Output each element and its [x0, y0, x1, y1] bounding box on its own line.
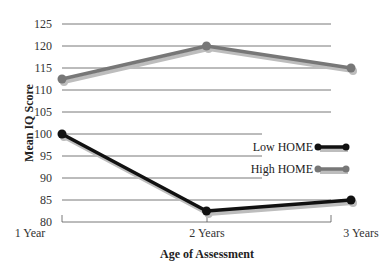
y-tick-label: 105: [34, 105, 52, 119]
data-point-marker: [347, 64, 356, 73]
legend-marker: [315, 166, 322, 173]
line-chart: 80859095100105110115120125 1 Year2 Years…: [0, 0, 387, 273]
data-point-marker: [202, 207, 211, 216]
x-tick-label: 2 Years: [189, 226, 225, 240]
x-axis-ticks: 1 Year2 Years3 Years: [15, 226, 379, 240]
x-axis-title: Age of Assessment: [160, 247, 254, 261]
y-tick-label: 95: [40, 149, 52, 163]
data-point-marker: [347, 196, 356, 205]
y-tick-label: 110: [34, 83, 52, 97]
legend-marker: [343, 144, 350, 151]
y-axis-title: Mean IQ Score: [22, 83, 36, 161]
x-axis-line: [62, 215, 331, 222]
y-tick-label: 100: [34, 127, 52, 141]
x-tick-label: 3 Years: [343, 226, 379, 240]
legend-label: High HOME: [251, 162, 313, 176]
legend-marker: [315, 144, 322, 151]
series-shadow: [64, 49, 353, 82]
legend: Low HOMEHigh HOME: [251, 133, 350, 179]
legend-label: Low HOME: [253, 140, 313, 154]
y-tick-label: 90: [40, 171, 52, 185]
data-point-marker: [58, 130, 67, 139]
y-tick-label: 85: [40, 193, 52, 207]
legend-marker: [343, 166, 350, 173]
y-axis-ticks: 80859095100105110115120125: [34, 17, 52, 229]
data-point-marker: [58, 75, 67, 84]
y-tick-label: 125: [34, 17, 52, 31]
data-point-marker: [202, 42, 211, 51]
y-tick-label: 120: [34, 39, 52, 53]
x-tick-label: 1 Year: [15, 226, 46, 240]
y-tick-label: 115: [34, 61, 52, 75]
